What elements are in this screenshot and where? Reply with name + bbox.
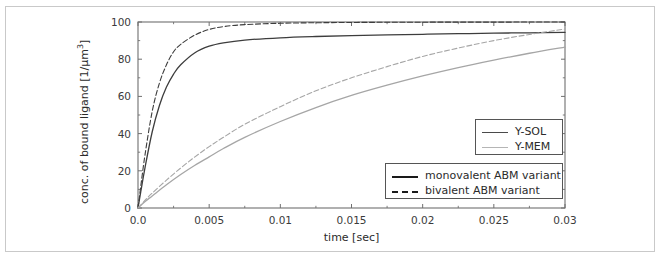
legend-color-swatch-icon — [482, 141, 508, 153]
y-tick-label-3: 60 — [118, 90, 131, 102]
legend-color-label: Y-SOL — [515, 125, 546, 138]
y-tick-label-1: 20 — [118, 165, 131, 177]
x-axis-title: time [sec] — [324, 231, 379, 244]
legend-color-entry[interactable]: Y-SOL — [482, 124, 555, 139]
x-tick-label-4: 0.02 — [411, 214, 434, 226]
x-tick-label-5: 0.025 — [479, 214, 509, 226]
y-tick-label-2: 40 — [118, 128, 131, 140]
x-tick-label-0: 0.0 — [130, 214, 147, 226]
legend-style-box[interactable]: monovalent ABM variantbivalent ABM varia… — [385, 163, 563, 199]
legend-color-label: Y-MEM — [515, 140, 550, 153]
x-tick-label-1: 0.005 — [194, 214, 224, 226]
y-tick-label-4: 80 — [118, 53, 131, 65]
legend-color-entry[interactable]: Y-MEM — [482, 139, 555, 154]
legend-style-swatch-icon — [392, 170, 418, 182]
y-tick-label-5: 100 — [111, 16, 131, 28]
legend-style-label: monovalent ABM variant — [425, 169, 561, 182]
legend-style-entry[interactable]: bivalent ABM variant — [392, 183, 555, 198]
x-tick-label-3: 0.015 — [336, 214, 366, 226]
y-axis-title: conc. of bound ligand [1/μm3] — [76, 40, 91, 204]
legend-style-swatch-icon — [392, 185, 418, 197]
legend-style-entry[interactable]: monovalent ABM variant — [392, 168, 555, 183]
x-tick-label-6: 0.03 — [553, 214, 576, 226]
x-tick-label-2: 0.01 — [269, 214, 292, 226]
legend-style-label: bivalent ABM variant — [425, 184, 540, 197]
legend-color-swatch-icon — [482, 126, 508, 138]
legend-color-box[interactable]: Y-SOLY-MEM — [475, 119, 563, 155]
y-tick-label-0: 0 — [124, 202, 131, 214]
figure-root: 0204060801000.00.0050.010.0150.020.0250.… — [0, 0, 663, 258]
